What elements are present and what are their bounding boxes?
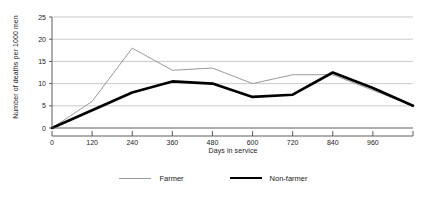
y-tick-label: 0 [42, 125, 46, 132]
y-tick-label: 10 [38, 80, 46, 87]
x-tick-label: 360 [166, 139, 178, 146]
y-tick-label: 5 [42, 102, 46, 109]
x-tick-label: 0 [50, 139, 54, 146]
axis-lines [52, 17, 413, 136]
legend-item-non-farmer: Non-farmer [230, 174, 308, 183]
x-tick-label: 600 [247, 139, 259, 146]
series-line-farmer [52, 48, 413, 128]
line-chart: Number of deaths per 1000 men 0510152025… [0, 0, 427, 197]
x-tick-label: 240 [126, 139, 138, 146]
x-tick-label: 720 [287, 139, 299, 146]
x-tick-label: 120 [86, 139, 98, 146]
x-axis-ticks: 0120240360480600720840960 [50, 131, 413, 146]
y-tick-label: 20 [38, 36, 46, 43]
legend-label-non-farmer: Non-farmer [270, 174, 308, 183]
y-tick-label: 15 [38, 58, 46, 65]
gridlines [52, 17, 413, 106]
x-tick-label: 960 [367, 139, 379, 146]
data-series [52, 48, 413, 128]
plot-area: 0510152025 0120240360480600720840960 [0, 0, 427, 150]
series-line-non-farmer [52, 73, 413, 129]
y-axis-ticks: 0510152025 [38, 14, 52, 132]
legend-item-farmer: Farmer [119, 174, 183, 183]
chart-legend: Farmer Non-farmer [0, 168, 427, 188]
x-tick-label: 840 [327, 139, 339, 146]
x-tick-label: 480 [207, 139, 219, 146]
y-tick-label: 25 [38, 14, 46, 21]
legend-swatch-non-farmer-icon [230, 177, 262, 179]
x-axis-title: Days in service [52, 147, 414, 154]
legend-label-farmer: Farmer [159, 174, 183, 183]
legend-swatch-farmer-icon [119, 178, 151, 179]
